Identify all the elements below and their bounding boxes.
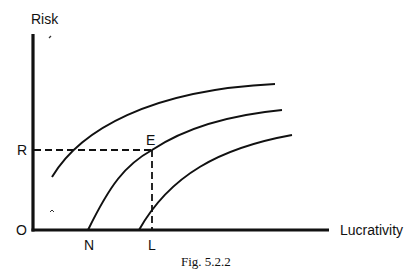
y-axis-label: Risk: [31, 11, 59, 27]
point-label-e: E: [146, 132, 155, 148]
risk-lucrativity-diagram: Risk Lucrativity O R E N L Fig. 5.2.2: [0, 0, 414, 273]
upper-indifference-curve: [52, 84, 275, 177]
scan-mark: [49, 36, 51, 38]
point-label-l: L: [148, 237, 156, 253]
middle-indifference-curve: [88, 110, 282, 230]
origin-label: O: [16, 222, 27, 238]
point-label-n: N: [84, 237, 94, 253]
x-axis-label: Lucrativity: [340, 222, 403, 238]
lower-indifference-curve: [139, 135, 292, 230]
figure-caption: Fig. 5.2.2: [181, 254, 231, 269]
scan-mark: [50, 210, 54, 212]
point-label-r: R: [17, 142, 27, 158]
